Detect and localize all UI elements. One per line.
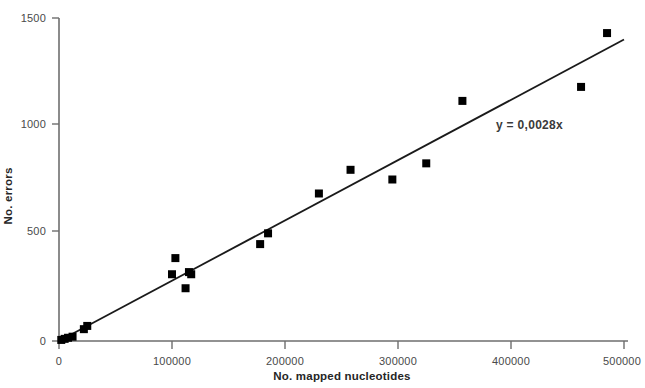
trendline-equation-label: y = 0,0028x [496,118,563,132]
x-tick-label-300000: 300000 [379,355,417,367]
y-tick-label-0: 0 [0,335,46,347]
data-point-marker [69,333,77,341]
x-tick-label-500000: 500000 [603,355,641,367]
data-point-marker [83,322,91,330]
data-point-marker [347,166,355,174]
data-point-marker [256,240,264,248]
x-axis-title: No. mapped nucleotides [273,370,410,382]
scatter-plot-canvas [0,0,645,388]
y-axis-title: No. errors [2,168,14,225]
y-tick-label-1000: 1000 [0,118,46,130]
x-tick-label-0: 0 [56,355,62,367]
data-point-marker [603,29,611,37]
chart-figure: 1500 1000 500 0 0 100000 200000 300000 4… [0,0,645,388]
data-point-marker [577,83,585,91]
x-tick-label-200000: 200000 [266,355,304,367]
x-tick-label-100000: 100000 [153,355,191,367]
data-point-marker [171,254,179,262]
y-tick-label-1500: 1500 [0,12,46,24]
trendline [59,40,624,341]
data-point-marker [168,270,176,278]
data-point-marker [388,176,396,184]
data-point-marker [315,189,323,197]
data-point-marker [264,229,272,237]
y-tick-label-500: 500 [0,225,46,237]
x-tick-label-400000: 400000 [492,355,530,367]
data-point-marker [187,270,195,278]
data-point-marker [422,159,430,167]
data-point-marker [458,97,466,105]
data-point-marker [182,284,190,292]
trendline-path [59,40,624,341]
